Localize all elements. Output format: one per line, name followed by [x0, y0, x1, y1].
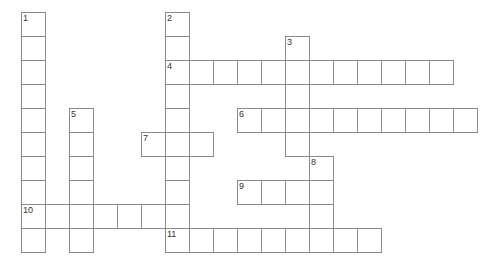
- clue-number: 2: [167, 13, 172, 23]
- crossword-cell[interactable]: [189, 132, 214, 157]
- crossword-cell[interactable]: [165, 156, 190, 181]
- crossword-cell[interactable]: [21, 132, 46, 157]
- crossword-cell[interactable]: [357, 60, 382, 85]
- crossword-cell[interactable]: [429, 60, 454, 85]
- crossword-cell[interactable]: [45, 204, 70, 229]
- crossword-cell[interactable]: [261, 108, 286, 133]
- crossword-cell[interactable]: [285, 84, 310, 109]
- clue-number: 1: [23, 13, 28, 23]
- crossword-cell[interactable]: [237, 228, 262, 253]
- crossword-cell[interactable]: [21, 228, 46, 253]
- crossword-cell[interactable]: 9: [237, 180, 262, 205]
- crossword-cell[interactable]: [309, 204, 334, 229]
- clue-number: 10: [23, 205, 33, 215]
- crossword-cell[interactable]: 11: [165, 228, 190, 253]
- crossword-cell[interactable]: [93, 204, 118, 229]
- crossword-cell[interactable]: 6: [237, 108, 262, 133]
- crossword-cell[interactable]: [309, 60, 334, 85]
- crossword-cell[interactable]: [405, 60, 430, 85]
- crossword-cell[interactable]: [69, 180, 94, 205]
- crossword-cell[interactable]: [21, 156, 46, 181]
- crossword-cell[interactable]: [261, 228, 286, 253]
- crossword-cell[interactable]: [213, 60, 238, 85]
- crossword-cell[interactable]: [333, 108, 358, 133]
- crossword-cell[interactable]: [69, 228, 94, 253]
- crossword-cell[interactable]: [453, 108, 478, 133]
- crossword-cell[interactable]: [333, 60, 358, 85]
- crossword-cell[interactable]: 3: [285, 36, 310, 61]
- clue-number: 9: [239, 181, 244, 191]
- crossword-cell[interactable]: [165, 36, 190, 61]
- crossword-cell[interactable]: [381, 108, 406, 133]
- crossword-cell[interactable]: [381, 60, 406, 85]
- crossword-cell[interactable]: [165, 84, 190, 109]
- crossword-cell[interactable]: [165, 180, 190, 205]
- clue-number: 5: [71, 109, 76, 119]
- crossword-cell[interactable]: [357, 228, 382, 253]
- crossword-cell[interactable]: [285, 132, 310, 157]
- crossword-cell[interactable]: 2: [165, 12, 190, 37]
- crossword-cell[interactable]: [429, 108, 454, 133]
- clue-number: 6: [239, 109, 244, 119]
- crossword-cell[interactable]: [69, 156, 94, 181]
- crossword-cell[interactable]: [21, 108, 46, 133]
- crossword-cell[interactable]: [189, 60, 214, 85]
- crossword-cell[interactable]: [261, 60, 286, 85]
- crossword-cell[interactable]: 1: [21, 12, 46, 37]
- crossword-cell[interactable]: [21, 60, 46, 85]
- crossword-cell[interactable]: [261, 180, 286, 205]
- crossword-cell[interactable]: [285, 108, 310, 133]
- crossword-cell[interactable]: [405, 108, 430, 133]
- crossword-cell[interactable]: [237, 60, 262, 85]
- crossword-cell[interactable]: [21, 84, 46, 109]
- clue-number: 7: [143, 133, 148, 143]
- crossword-cell[interactable]: 4: [165, 60, 190, 85]
- clue-number: 4: [167, 61, 172, 71]
- clue-number: 11: [167, 229, 176, 239]
- crossword-cell[interactable]: [213, 228, 238, 253]
- crossword-cell[interactable]: 10: [21, 204, 46, 229]
- crossword-cell[interactable]: [69, 204, 94, 229]
- clue-number: 8: [311, 157, 316, 167]
- crossword-cell[interactable]: [69, 132, 94, 157]
- crossword-cell[interactable]: [21, 180, 46, 205]
- crossword-cell[interactable]: 5: [69, 108, 94, 133]
- crossword-cell[interactable]: [333, 228, 358, 253]
- crossword-cell[interactable]: [285, 228, 310, 253]
- clue-number: 3: [287, 37, 292, 47]
- crossword-cell[interactable]: 8: [309, 156, 334, 181]
- crossword-cell[interactable]: [309, 180, 334, 205]
- crossword-cell[interactable]: [117, 204, 142, 229]
- crossword-cell[interactable]: [309, 108, 334, 133]
- crossword-cell[interactable]: [165, 132, 190, 157]
- crossword-cell[interactable]: [285, 60, 310, 85]
- crossword-cell[interactable]: [189, 228, 214, 253]
- crossword-cell[interactable]: [285, 180, 310, 205]
- crossword-cell[interactable]: [165, 204, 190, 229]
- crossword-cell[interactable]: [309, 228, 334, 253]
- crossword-grid: 1102411356789: [0, 0, 495, 257]
- crossword-cell[interactable]: [165, 108, 190, 133]
- crossword-cell[interactable]: [357, 108, 382, 133]
- crossword-cell[interactable]: 7: [141, 132, 166, 157]
- crossword-cell[interactable]: [21, 36, 46, 61]
- crossword-cell[interactable]: [141, 204, 166, 229]
